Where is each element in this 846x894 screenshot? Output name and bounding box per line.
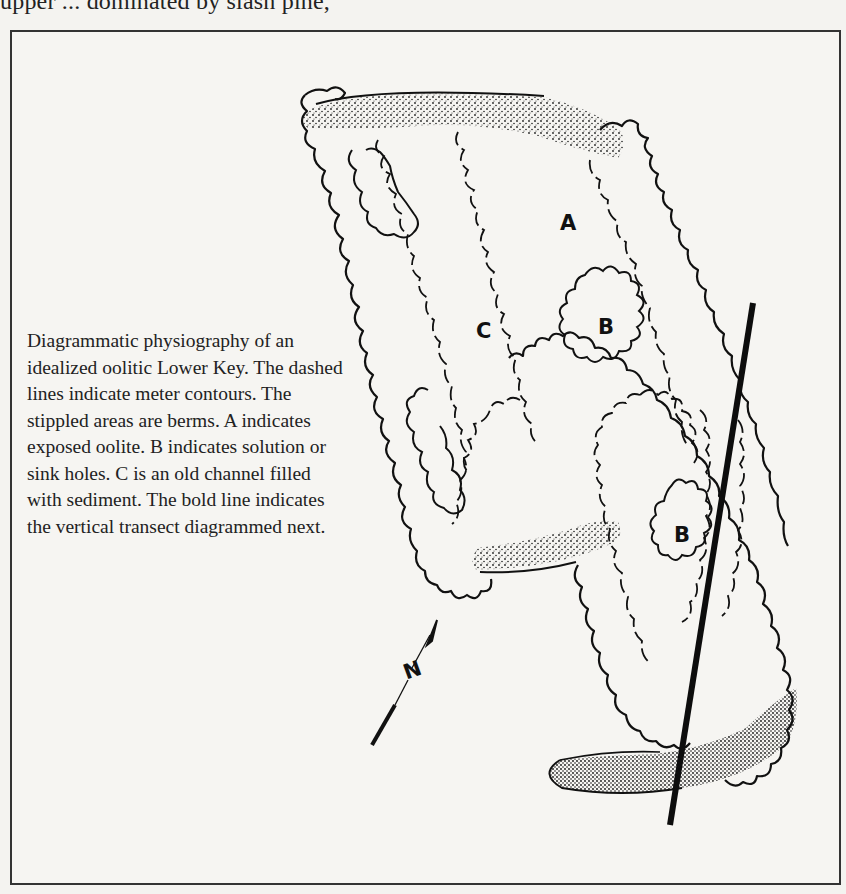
north-arrow-icon: N [372, 620, 437, 745]
island-shoreline [301, 87, 792, 785]
label-b-upper: B [598, 315, 614, 339]
sink-hole-2 [650, 479, 711, 560]
label-b-lower: B [674, 523, 690, 547]
key-physiography-diagram: N A B C B [0, 0, 846, 894]
svg-text:N: N [400, 656, 425, 685]
label-a: A [560, 211, 577, 235]
ridges [349, 148, 465, 513]
label-c: C [476, 319, 491, 343]
berm-north [302, 94, 624, 158]
berm-channel-mouth [472, 521, 620, 570]
